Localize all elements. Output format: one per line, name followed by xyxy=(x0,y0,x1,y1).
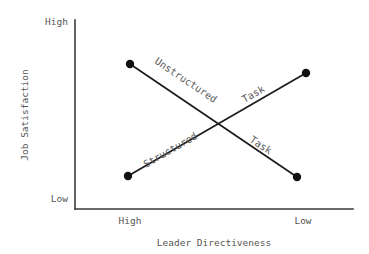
interaction-line-chart: Job Satisfaction High Low High Low Leade… xyxy=(0,0,369,254)
data-point-structured-high xyxy=(124,172,132,180)
data-point-unstructured-high xyxy=(126,60,134,68)
series-label-unstructured: Unstructured xyxy=(153,55,219,105)
x-tick-label-low: Low xyxy=(294,215,311,226)
x-tick-label-high: High xyxy=(119,215,142,226)
data-point-structured-low xyxy=(302,69,310,77)
y-tick-label-high: High xyxy=(45,16,68,27)
chart-figure: Job Satisfaction High Low High Low Leade… xyxy=(0,0,369,254)
data-point-unstructured-low xyxy=(293,173,301,181)
y-tick-label-low: Low xyxy=(51,193,68,204)
series-label-structured: Structured xyxy=(141,130,199,170)
x-axis-title: Leader Directiveness xyxy=(157,237,271,248)
y-axis-title: Job Satisfaction xyxy=(19,69,30,161)
series-label-structured-task: Task xyxy=(240,83,266,105)
